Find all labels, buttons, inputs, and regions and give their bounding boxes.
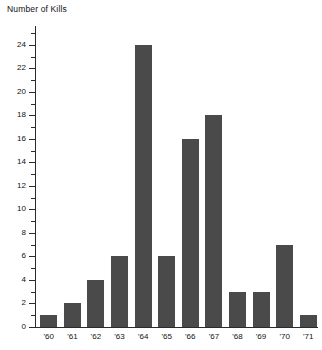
y-axis-tick-label: 4 (0, 276, 26, 284)
y-axis-minor-tick (31, 104, 35, 105)
y-axis-major-tick (29, 209, 35, 210)
bar (87, 280, 104, 327)
bar-chart: Number of Kills 024681012141618202224 '6… (0, 0, 322, 350)
y-axis-tick-label: 10 (0, 205, 26, 213)
y-axis-minor-tick (31, 315, 35, 316)
y-axis-line (35, 26, 36, 327)
y-axis-minor-tick (31, 221, 35, 222)
y-axis-tick-label: 20 (0, 88, 26, 96)
bar (229, 292, 246, 327)
y-axis-minor-tick (31, 245, 35, 246)
y-axis-minor-tick (31, 198, 35, 199)
bar (182, 139, 199, 327)
x-axis-line (35, 327, 318, 328)
y-axis-major-tick (29, 45, 35, 46)
bar (40, 315, 57, 327)
y-axis-tick-label: 0 (0, 323, 26, 331)
bar (135, 45, 152, 327)
y-axis-minor-tick (31, 127, 35, 128)
y-axis-major-tick (29, 256, 35, 257)
bar (300, 315, 317, 327)
y-axis-minor-tick (31, 151, 35, 152)
y-axis-major-tick (29, 280, 35, 281)
y-axis-tick-label: 16 (0, 135, 26, 143)
y-axis-minor-tick (31, 57, 35, 58)
y-axis-tick-label: 2 (0, 299, 26, 307)
y-axis-minor-tick (31, 292, 35, 293)
y-axis-tick-label: 22 (0, 64, 26, 72)
y-axis-major-tick (29, 162, 35, 163)
y-axis-tick-label: 18 (0, 111, 26, 119)
y-axis-major-tick (29, 92, 35, 93)
y-axis-major-tick (29, 139, 35, 140)
bar (253, 292, 270, 327)
y-axis-tick-label: 12 (0, 182, 26, 190)
bar (276, 245, 293, 327)
y-axis-tick-label: 6 (0, 252, 26, 260)
y-axis-minor-tick (31, 33, 35, 34)
bar (158, 256, 175, 327)
y-axis-major-tick (29, 115, 35, 116)
y-axis-major-tick (29, 327, 35, 328)
y-axis-tick-label: 8 (0, 229, 26, 237)
bar (64, 303, 81, 327)
bar (111, 256, 128, 327)
y-axis-minor-tick (31, 268, 35, 269)
y-axis-major-tick (29, 233, 35, 234)
y-axis-major-tick (29, 186, 35, 187)
y-axis-major-tick (29, 68, 35, 69)
y-axis-minor-tick (31, 174, 35, 175)
bar (205, 115, 222, 327)
y-axis-tick-label: 24 (0, 41, 26, 49)
y-axis-major-tick (29, 303, 35, 304)
y-axis-title: Number of Kills (7, 4, 67, 14)
y-axis-minor-tick (31, 80, 35, 81)
y-axis-tick-label: 14 (0, 158, 26, 166)
x-axis-tick-label: '71 (294, 332, 322, 341)
